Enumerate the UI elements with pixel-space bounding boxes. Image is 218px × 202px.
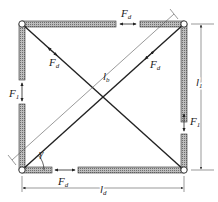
left-force-label: F1	[8, 87, 19, 101]
right-force-label: F1	[189, 115, 200, 129]
height-dimension: l1	[191, 24, 214, 170]
diagonal-tl-br-force-label: Fd	[48, 56, 60, 70]
left-member: F1	[8, 24, 25, 170]
right-member: F1	[181, 24, 200, 170]
braced-frame-diagram: Fd Fd F1 F1 Fd Fd lb	[0, 0, 218, 202]
top-member: Fd	[22, 7, 184, 27]
bottom-force-label: Fd	[57, 175, 69, 189]
joint-bottom-right	[181, 167, 187, 173]
diagonal-tl-br-force-arrow	[48, 48, 57, 56]
top-force-label: Fd	[120, 7, 132, 21]
height-dimension-label: l1	[196, 76, 203, 90]
joint-bottom-left	[19, 167, 25, 173]
angle-gamma: γ	[38, 147, 44, 170]
width-dimension: ld	[22, 176, 184, 197]
width-dimension-label: ld	[100, 183, 107, 197]
diagonal-dimension-label: lb	[103, 70, 110, 84]
joint-top-left	[19, 21, 25, 27]
diagonal-bl-tr-force-label: Fd	[149, 58, 161, 72]
angle-gamma-label: γ	[39, 147, 44, 159]
joint-top-right	[181, 21, 187, 27]
